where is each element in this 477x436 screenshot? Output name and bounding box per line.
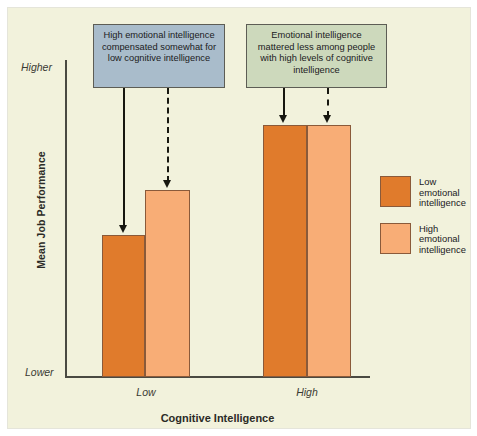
legend-swatch-low-emotional-intelligence [380, 176, 411, 207]
callout-left: High emotional intelligence compensated … [93, 24, 225, 88]
callout-left-solid-arrow-line [123, 88, 125, 227]
legend-label-low-emotional-intelligence: Low emotional intelligence [419, 176, 466, 209]
legend: Low emotional intelligence High emotiona… [380, 176, 466, 270]
chart-panel: Higher Lower Mean Job Performance Low Hi… [8, 8, 470, 428]
callout-left-dashed-arrow-head-icon [163, 180, 171, 188]
x-axis-title: Cognitive Intelligence [65, 412, 370, 424]
y-axis-title: Mean Job Performance [35, 150, 47, 270]
callout-right-dashed-arrow-line [327, 88, 329, 117]
bar-high-cognitive-low-emotional [263, 125, 307, 377]
y-axis-tick-lower: Lower [25, 366, 54, 378]
bar-low-cognitive-high-emotional [145, 190, 190, 377]
legend-item-high-emotional-intelligence: High emotional intelligence [380, 223, 466, 256]
y-axis-tick-higher: Higher [21, 61, 52, 73]
x-axis-tick-high: High [277, 386, 337, 398]
callout-right: Emotional intelligence mattered less amo… [246, 24, 387, 88]
legend-label-high-emotional-intelligence: High emotional intelligence [419, 223, 466, 256]
callout-right-solid-arrow-head-icon [279, 115, 287, 123]
bar-high-cognitive-high-emotional [307, 125, 351, 377]
chart-figure: Higher Lower Mean Job Performance Low Hi… [0, 0, 477, 436]
x-axis-tick-low: Low [116, 386, 176, 398]
callout-right-solid-arrow-line [283, 88, 285, 117]
callout-right-dashed-arrow-head-icon [323, 115, 331, 123]
legend-item-low-emotional-intelligence: Low emotional intelligence [380, 176, 466, 209]
legend-swatch-high-emotional-intelligence [380, 223, 411, 254]
callout-left-solid-arrow-head-icon [119, 225, 127, 233]
callout-left-dashed-arrow-line [167, 88, 169, 182]
y-axis-line [65, 60, 67, 378]
bar-low-cognitive-low-emotional [102, 235, 145, 377]
